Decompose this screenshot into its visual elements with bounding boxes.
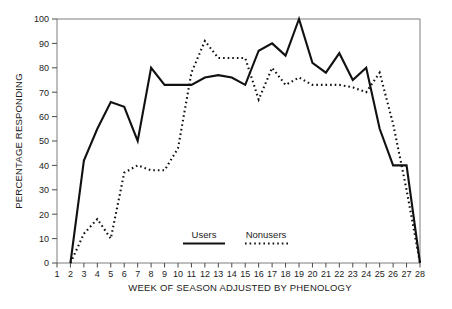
x-tick-label: 21: [321, 269, 331, 279]
x-tick-label: 28: [415, 269, 425, 279]
x-axis-title: WEEK OF SEASON ADJUSTED BY PHENOLOGY: [128, 282, 352, 293]
x-tick-label: 11: [187, 269, 196, 279]
x-tick-label: 15: [240, 269, 250, 279]
x-tick-label: 19: [294, 269, 304, 279]
x-tick-label: 27: [402, 269, 412, 279]
x-tick-label: 8: [149, 269, 154, 279]
figure-container: 0 10 20 30 40 50: [0, 0, 452, 309]
x-tick-label: 10: [173, 269, 183, 279]
x-tick-label: 7: [135, 269, 140, 279]
y-tick-label: 50: [39, 136, 49, 146]
x-tick-label: 3: [81, 269, 86, 279]
x-tick-label: 23: [348, 269, 358, 279]
y-tick-label: 30: [39, 185, 49, 195]
y-tick-label: 0: [44, 258, 49, 268]
y-tick-label: 90: [39, 39, 49, 49]
x-tick-label: 25: [375, 269, 385, 279]
line-chart: 0 10 20 30 40 50: [0, 0, 452, 309]
x-tick-label: 26: [388, 269, 398, 279]
x-tick-label: 17: [267, 269, 277, 279]
y-tick-label: 20: [39, 210, 49, 220]
y-tick-label: 70: [39, 88, 49, 98]
y-axis-title: PERCENTAGE RESPONDING: [13, 73, 24, 208]
y-tick-label: 60: [39, 112, 49, 122]
y-tick-label: 10: [39, 234, 49, 244]
x-tick-label: 4: [95, 269, 100, 279]
legend-label-users: Users: [192, 229, 217, 240]
y-tick-label: 100: [34, 14, 49, 24]
x-tick-label: 2: [68, 269, 73, 279]
x-tick-label: 13: [213, 269, 223, 279]
x-tick-label: 16: [254, 269, 264, 279]
x-tick-label: 6: [122, 269, 127, 279]
x-tick-label: 22: [334, 269, 344, 279]
x-tick-label: 12: [200, 269, 210, 279]
y-tick-label: 80: [39, 63, 49, 73]
legend-label-nonusers: Nonusers: [246, 229, 287, 240]
x-tick-label: 14: [227, 269, 237, 279]
x-tick-label: 20: [307, 269, 317, 279]
x-tick-label: 24: [361, 269, 371, 279]
x-tick-label: 5: [108, 269, 113, 279]
x-tick-label: 1: [54, 269, 59, 279]
y-tick-label: 40: [39, 161, 49, 171]
x-tick-label: 18: [281, 269, 291, 279]
x-tick-label: 9: [162, 269, 167, 279]
